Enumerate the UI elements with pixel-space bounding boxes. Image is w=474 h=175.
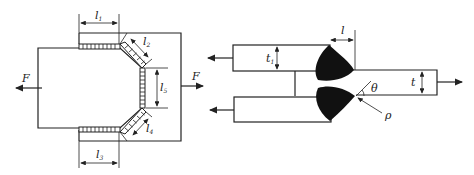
weld-bead-lower xyxy=(316,86,355,121)
force-right-label: F xyxy=(191,70,200,83)
lap-joint-figure: l1 l2 l5 l4 l3 F F xyxy=(16,9,203,168)
weld-diagrams: l1 l2 l5 l4 l3 F F xyxy=(0,0,474,175)
fillet-weld-top xyxy=(79,44,120,49)
radius-rho-label: ρ xyxy=(384,109,392,122)
dim-t1-label: t1 xyxy=(266,52,274,65)
fillet-weld-lower-diagonal xyxy=(120,108,146,134)
butt-strap-figure: l t1 t θ ρ xyxy=(208,24,462,122)
dim-l3-label: l3 xyxy=(96,148,104,161)
dim-l5-label: l5 xyxy=(160,81,168,94)
upper-cover-plate xyxy=(233,45,330,71)
dim-l4-label: l4 xyxy=(146,122,154,135)
force-left-label: F xyxy=(21,72,30,85)
dim-l2-label: l2 xyxy=(143,35,151,48)
lower-cover-plate xyxy=(234,97,331,122)
dim-l1-label: l1 xyxy=(95,9,102,22)
dim-l-label: l xyxy=(341,24,345,37)
angle-theta-label: θ xyxy=(371,82,378,95)
inner-plate xyxy=(38,48,142,128)
fillet-weld-vertical xyxy=(140,68,145,108)
dim-t-label: t xyxy=(411,76,416,89)
fillet-weld-bottom xyxy=(79,127,120,132)
weld-bead-upper xyxy=(316,45,354,81)
